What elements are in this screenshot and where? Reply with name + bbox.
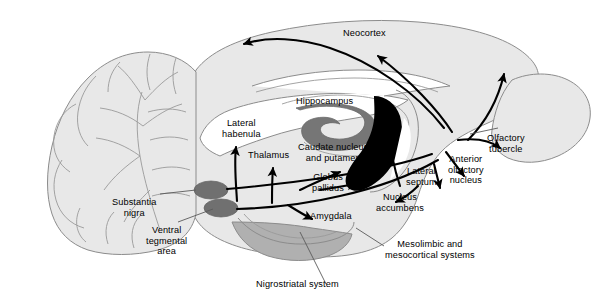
substantia-nigra-body <box>194 181 228 199</box>
brain-pathway-diagram: Neocortex Hippocampus Lateral habenula T… <box>0 0 602 299</box>
label-anterior-olfactory-nucleus: Anterior olfactory nucleus <box>448 154 484 186</box>
label-mesolimbic-mesocortical: Mesolimbic and mesocortical systems <box>385 239 475 260</box>
label-nigrostriatal-system: Nigrostriatal system <box>256 279 339 290</box>
label-neocortex: Neocortex <box>343 28 386 39</box>
label-caudate-putamen: Caudate nucleus and putamen <box>298 142 368 163</box>
ventral-tegmental-area-body <box>204 199 238 217</box>
label-ventral-tegmental-area: Ventral tegmental area <box>146 225 187 257</box>
label-thalamus: Thalamus <box>248 150 289 161</box>
label-hippocampus: Hippocampus <box>296 96 353 107</box>
label-amygdala: Amygdala <box>310 211 352 222</box>
label-globus-pallidus: Globus pallidus <box>312 172 344 193</box>
label-lateral-septum: Lateral septum <box>406 166 437 187</box>
label-substantia-nigra: Substantia nigra <box>112 197 156 218</box>
label-lateral-habenula: Lateral habenula <box>222 118 261 139</box>
label-olfactory-tubercle: Olfactory tubercle <box>487 133 525 154</box>
label-nucleus-accumbens: Nucleus accumbens <box>376 192 424 213</box>
